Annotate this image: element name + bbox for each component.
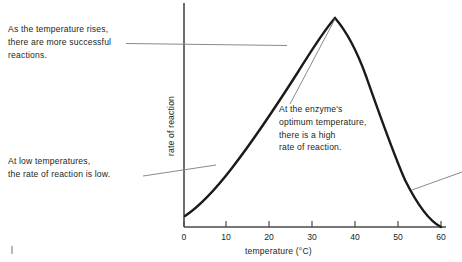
figure-canvas: As the temperature rises, there are more… [0, 0, 462, 262]
leader-line-optimum [290, 19, 335, 104]
x-axis-ticks [184, 221, 441, 227]
x-tick-label-0: 0 [172, 232, 196, 242]
x-tick-label-30: 30 [300, 232, 324, 242]
callout-low-temperature: At low temperatures, the rate of reactio… [8, 155, 110, 181]
callout-optimum-temperature: At the enzyme's optimum temperature, the… [279, 103, 367, 154]
x-tick-label-40: 40 [343, 232, 367, 242]
leader-line-low [143, 165, 216, 176]
x-tick-label-50: 50 [386, 232, 410, 242]
callout-temperature-rises: As the temperature rises, there are more… [8, 23, 111, 61]
x-axis-title: temperature (°C) [245, 246, 312, 256]
leader-line-rise [126, 44, 287, 46]
x-tick-label-20: 20 [257, 232, 281, 242]
leader-line-denature [412, 172, 462, 190]
x-tick-label-60: 60 [429, 232, 453, 242]
x-tick-label-10: 10 [214, 232, 238, 242]
y-axis-title: rate of reaction [166, 144, 176, 156]
page-corner-mark [11, 246, 13, 254]
